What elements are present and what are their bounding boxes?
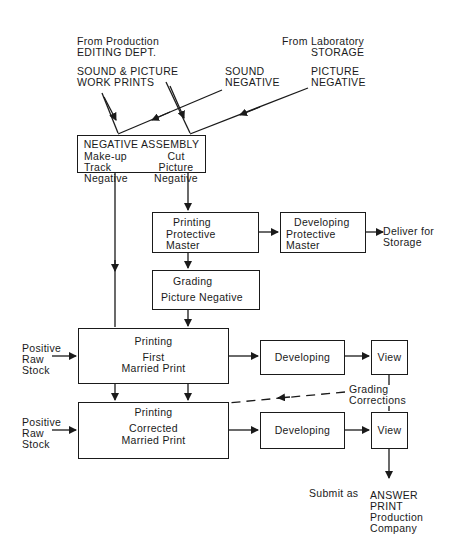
node-view-1: View xyxy=(371,340,408,375)
ppm-line3: Master xyxy=(166,240,200,251)
grading-corrections-line2: Corrections xyxy=(349,395,406,406)
developing-2-label: Developing xyxy=(261,425,344,436)
grading-corrections: Grading Corrections xyxy=(349,384,406,406)
raw-stock-1-line3: Stock xyxy=(22,365,61,376)
submit-prefix: Submit as xyxy=(309,488,358,499)
arrow-work-prints-right xyxy=(166,82,190,133)
work-prints-line2: WORK PRINTS xyxy=(77,77,178,88)
deliver-for-storage: Deliver for Storage xyxy=(383,226,434,248)
view-2-label: View xyxy=(372,425,407,436)
node-developing-2: Developing xyxy=(260,412,345,449)
developing-1-label: Developing xyxy=(261,352,344,363)
dpm-line3: Master xyxy=(286,240,320,251)
pcm-line2: Corrected xyxy=(79,423,228,434)
sound-negative-line2: NEGATIVE xyxy=(225,77,280,88)
view-1-label: View xyxy=(372,352,407,363)
node-printing-corrected-married-print: Printing Corrected Married Print xyxy=(78,402,229,459)
pfm-line3: Married Print xyxy=(79,363,228,374)
negative-assembly-title: NEGATIVE ASSEMBLY xyxy=(78,139,205,150)
input-work-prints: SOUND & PICTURE WORK PRINTS xyxy=(77,66,178,88)
node-view-2: View xyxy=(371,412,408,449)
na-right-line3: Negative xyxy=(152,173,200,184)
ppm-line1: Printing xyxy=(173,217,211,228)
pfm-line1: Printing xyxy=(79,336,228,347)
negative-assembly-right: Cut Picture Negative xyxy=(152,151,200,184)
pcm-line3: Married Print xyxy=(79,435,228,446)
raw-stock-2: Positive Raw Stock xyxy=(22,417,61,450)
pcm-line1: Printing xyxy=(79,407,228,418)
node-negative-assembly: NEGATIVE ASSEMBLY Make-up Track Negative… xyxy=(77,135,206,173)
raw-stock-1: Positive Raw Stock xyxy=(22,343,61,376)
na-left-line3: Negative xyxy=(84,173,128,184)
node-developing-protective-master: Developing Protective Master xyxy=(280,212,366,253)
dpm-line1: Developing xyxy=(294,217,350,228)
submit-line4: Company xyxy=(370,523,423,534)
grading-line1: Grading xyxy=(173,276,212,287)
source-production-line2: EDITING DEPT. xyxy=(77,47,159,58)
negative-assembly-left: Make-up Track Negative xyxy=(84,151,128,184)
source-laboratory: From Laboratory STORAGE xyxy=(282,36,364,58)
input-picture-negative: PICTURE NEGATIVE xyxy=(311,66,366,88)
source-laboratory-line2: STORAGE xyxy=(282,47,364,58)
picture-negative-line2: NEGATIVE xyxy=(311,77,366,88)
submit-target: ANSWER PRINT Production Company xyxy=(370,490,423,534)
node-developing-1: Developing xyxy=(260,340,345,375)
node-printing-first-married-print: Printing First Married Print xyxy=(78,328,229,384)
node-printing-protective-master: Printing Protective Master xyxy=(152,212,259,253)
deliver-line2: Storage xyxy=(383,237,434,248)
node-grading-picture-negative: Grading Picture Negative xyxy=(152,270,260,310)
source-production: From Production EDITING DEPT. xyxy=(77,36,159,58)
grading-line2: Picture Negative xyxy=(161,292,243,303)
raw-stock-2-line3: Stock xyxy=(22,439,61,450)
input-sound-negative: SOUND NEGATIVE xyxy=(225,66,280,88)
